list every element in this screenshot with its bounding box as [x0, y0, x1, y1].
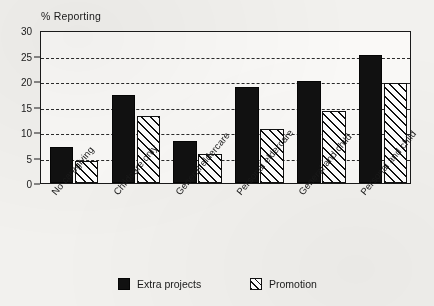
y-tick-label-10: 10	[6, 128, 32, 139]
y-tick-mark-15	[34, 107, 40, 108]
bars-layer	[41, 32, 410, 183]
y-tick-mark-5	[34, 158, 40, 159]
y-tick-mark-20	[34, 82, 40, 83]
y-tick-label-30: 30	[6, 26, 32, 37]
y-tick-label-20: 20	[6, 77, 32, 88]
legend-item-promotion: Promotion	[250, 278, 317, 290]
y-tick-label-5: 5	[6, 153, 32, 164]
y-tick-label-25: 25	[6, 51, 32, 62]
plot-area	[40, 31, 411, 184]
legend-item-extra-projects: Extra projects	[118, 278, 201, 290]
x-axis-category-labels: No caregivingChildcare onlyGeneral elder…	[0, 186, 434, 266]
chart-legend: Extra projectsPromotion	[0, 278, 434, 298]
bar-chart: % Reporting 051015202530 No caregivingCh…	[0, 0, 434, 306]
y-tick-mark-25	[34, 56, 40, 57]
plot-inner	[41, 32, 410, 183]
legend-label: Extra projects	[137, 278, 201, 290]
solid-swatch-icon	[118, 278, 130, 290]
y-axis-title: % Reporting	[41, 10, 101, 22]
legend-label: Promotion	[269, 278, 317, 290]
y-tick-mark-10	[34, 133, 40, 134]
y-tick-mark-0	[34, 184, 40, 185]
y-tick-label-15: 15	[6, 102, 32, 113]
hatch-swatch-icon	[250, 278, 262, 290]
